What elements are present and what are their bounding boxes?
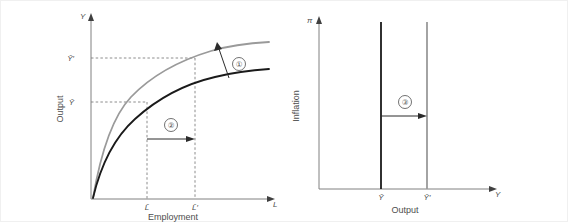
y-axis-title: Inflation xyxy=(291,90,301,122)
y-axis-arrowhead xyxy=(316,16,322,24)
annotation-2-label: ② xyxy=(168,121,175,130)
annotation-1-label: ① xyxy=(236,60,243,69)
x-axis-symbol: L xyxy=(273,200,277,209)
x-axis-title: Output xyxy=(391,205,419,215)
y-axis-title: Output xyxy=(55,95,65,123)
x-axis-symbol: Y xyxy=(495,190,501,199)
figure-frame: ① ② Y L Ȳ′ Ȳ L̄ L̄′ Output Employment xyxy=(0,0,568,222)
annotation-1-arrowhead xyxy=(214,42,222,51)
x-tick-label-lbar-prime: L̄′ xyxy=(192,203,198,212)
curve-production-shifted xyxy=(93,42,269,198)
panel-production-function: ① ② Y L Ȳ′ Ȳ L̄ L̄′ Output Employment xyxy=(1,1,285,222)
y-axis-symbol: Y xyxy=(80,12,86,21)
y-tick-label-ybar-prime: Ȳ′ xyxy=(67,54,74,63)
panel-potential-output: ③ π Y Ȳ Ȳ′ Inflation Output xyxy=(285,1,568,222)
annotation-3-label: ③ xyxy=(402,98,409,107)
y-axis-symbol: π xyxy=(307,16,313,25)
annotation-1-arrow-line xyxy=(219,49,229,78)
x-axis-title: Employment xyxy=(148,212,199,222)
x-tick-label-ybar-prime: Ȳ′ xyxy=(424,193,431,202)
production-function-chart: ① ② Y L Ȳ′ Ȳ L̄ L̄′ Output Employment xyxy=(1,1,285,222)
annotation-3-arrowhead xyxy=(418,113,427,119)
x-tick-label-lbar: L̄ xyxy=(145,203,150,212)
annotation-2-arrowhead xyxy=(186,136,195,142)
potential-output-chart: ③ π Y Ȳ Ȳ′ Inflation Output xyxy=(285,1,568,222)
curve-production-original xyxy=(93,69,269,198)
y-tick-label-ybar: Ȳ xyxy=(69,98,75,107)
x-tick-label-ybar: Ȳ xyxy=(378,193,384,202)
y-axis-arrowhead xyxy=(88,13,94,21)
